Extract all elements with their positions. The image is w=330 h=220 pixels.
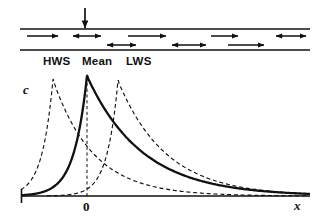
concentration-curves xyxy=(21,76,310,196)
y-axis-label: c xyxy=(23,83,29,96)
channel-walls xyxy=(20,29,310,50)
channel-flow-arrows xyxy=(27,36,306,45)
tide-label-lws: LWS xyxy=(126,56,152,68)
curve-hws xyxy=(21,79,309,195)
estuary-concentration-figure: HWS Mean LWS c x 0 xyxy=(0,0,330,220)
x-axis-zero-label: 0 xyxy=(83,200,90,213)
curve-mean xyxy=(21,76,310,196)
curve-lws xyxy=(47,80,310,195)
x-axis-label: x xyxy=(294,199,301,212)
tide-label-mean: Mean xyxy=(82,56,112,68)
tide-label-hws: HWS xyxy=(43,56,70,68)
figure-canvas xyxy=(0,0,330,220)
